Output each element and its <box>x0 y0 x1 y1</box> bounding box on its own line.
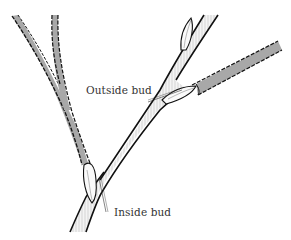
outside-bud-label: Outside bud <box>86 84 152 96</box>
right-branch <box>192 41 282 95</box>
inside-bud-label: Inside bud <box>114 206 171 218</box>
bud-pruning-diagram <box>0 0 291 240</box>
left-branch <box>12 15 90 165</box>
